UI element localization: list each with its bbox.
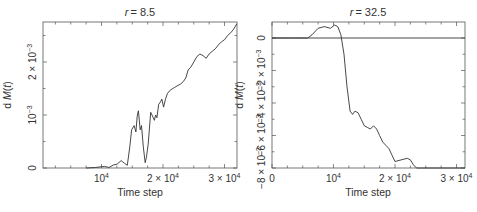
data-line (272, 25, 465, 168)
tick-marks (272, 22, 465, 168)
x-tick-label: 2 × 104 (147, 172, 179, 184)
y-axis-label: d M(t) (1, 81, 13, 108)
x-tick-label: 3 × 104 (441, 172, 473, 184)
x-tick-label: 104 (94, 172, 109, 184)
x-tick-label: 3 × 104 (209, 172, 241, 184)
x-tick-labels: 01042 × 1043 × 104 (269, 172, 472, 184)
plot-frame (43, 22, 237, 168)
y-axis-label: d M(t) (233, 81, 245, 108)
x-axis-label: Time step (117, 186, 163, 198)
y-tick-label: 0 (256, 35, 267, 41)
x-tick-label: 0 (269, 173, 275, 184)
chart-title: r= 8.5 (125, 6, 155, 18)
chart-figure: r= 8.5 1042 × 1043 × 104 010−32 × 10−3 T… (0, 0, 477, 212)
tick-marks (43, 22, 237, 168)
x-tick-labels: 1042 × 1043 × 104 (94, 172, 241, 184)
y-tick-label: 0 (27, 165, 38, 171)
plot-frame (272, 22, 465, 168)
chart-panel-r32-5: r= 32.5 01042 × 1043 × 104 0−2 × 10−3−4 … (233, 6, 473, 198)
x-tick-label: 104 (326, 172, 341, 184)
y-tick-labels: 010−32 × 10−3 (26, 44, 38, 171)
y-tick-label: 10−3 (26, 105, 38, 124)
x-tick-label: 2 × 104 (379, 172, 411, 184)
chart-panel-r8-5: r= 8.5 1042 × 1043 × 104 010−32 × 10−3 T… (1, 6, 241, 198)
y-tick-label: 2 × 10−3 (26, 44, 38, 80)
data-line (86, 24, 237, 168)
x-axis-label: Time step (345, 186, 391, 198)
y-tick-labels: 0−2 × 10−3−4 × 10−3−6 × 10−3−8 × 10−3 (255, 35, 267, 189)
chart-title: r= 32.5 (350, 6, 387, 18)
